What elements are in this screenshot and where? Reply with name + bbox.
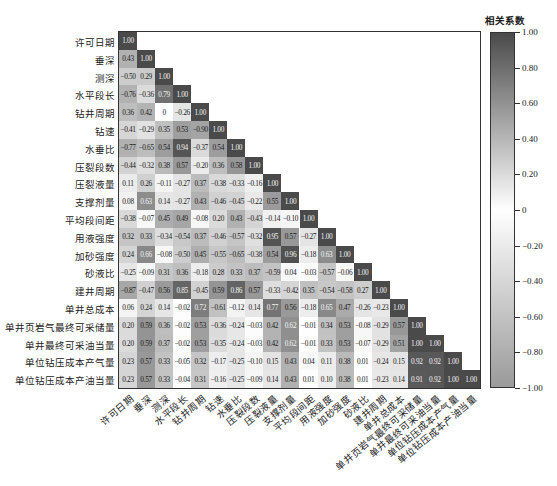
- heatmap-cell: 0.29: [137, 68, 155, 86]
- colorbar-tick-label: −0.60: [522, 312, 543, 322]
- heatmap-cell: 0.54: [263, 246, 281, 264]
- heatmap-cell: 1.00: [173, 85, 191, 103]
- heatmap-cell: 0.45: [155, 210, 173, 228]
- heatmap-cell: −0.18: [191, 263, 209, 281]
- heatmap-cell: −0.01: [300, 317, 318, 335]
- heatmap-cell: 0.53: [336, 317, 354, 335]
- heatmap-cell: −0.65: [137, 139, 155, 157]
- heatmap-cell: 0.23: [119, 370, 137, 388]
- heatmap-cell: 0.14: [245, 299, 263, 317]
- heatmap-cell: 0.08: [119, 192, 137, 210]
- heatmap-cell: 1.00: [426, 335, 444, 353]
- colorbar-tick-label: −0.80: [522, 347, 543, 357]
- heatmap-cell: 0.20: [119, 317, 137, 335]
- heatmap-cell: −0.25: [119, 263, 137, 281]
- correlation-heatmap: 1.000.431.00−0.500.291.00−0.76−0.360.791…: [0, 0, 557, 486]
- heatmap-cell: −0.57: [227, 228, 245, 246]
- heatmap-cell: 0.54: [155, 139, 173, 157]
- heatmap-cell: −0.27: [173, 174, 191, 192]
- colorbar-tick: [515, 388, 520, 389]
- heatmap-cell: −0.23: [372, 370, 390, 388]
- heatmap-cell: 0.92: [408, 352, 426, 370]
- heatmap-cell: 1.00: [390, 299, 408, 317]
- colorbar-title: 相关系数: [485, 13, 525, 27]
- heatmap-cell: 0.36: [155, 317, 173, 335]
- heatmap-cell: 1.00: [408, 335, 426, 353]
- y-axis-label: 压裂段数: [75, 160, 115, 174]
- heatmap-cell: −0.42: [281, 281, 299, 299]
- heatmap-cell: 1.00: [263, 174, 281, 192]
- heatmap-cell: 0.38: [155, 157, 173, 175]
- colorbar-tick-label: 1.00: [522, 27, 538, 37]
- colorbar-tick: [515, 139, 520, 140]
- heatmap-cell: 0.15: [263, 352, 281, 370]
- heatmap-cell: 1.00: [227, 139, 245, 157]
- heatmap-cell: −0.10: [245, 352, 263, 370]
- heatmap-cell: 0.15: [390, 352, 408, 370]
- heatmap-cell: 0.53: [191, 317, 209, 335]
- heatmap-cell: −0.12: [227, 299, 245, 317]
- heatmap-cell: 0.77: [263, 299, 281, 317]
- heatmap-cell: 0.63: [318, 246, 336, 264]
- heatmap-cell: 0.38: [336, 370, 354, 388]
- heatmap-cell: −0.24: [227, 335, 245, 353]
- heatmap-cell: 0.04: [281, 263, 299, 281]
- heatmap-cell: 0.04: [300, 352, 318, 370]
- heatmap-cell: 0.31: [155, 263, 173, 281]
- heatmap-cell: 0.37: [191, 174, 209, 192]
- heatmap-cell: −0.46: [209, 228, 227, 246]
- heatmap-cell: −0.57: [318, 263, 336, 281]
- heatmap-cell: −0.34: [155, 228, 173, 246]
- heatmap-cell: −0.10: [281, 210, 299, 228]
- heatmap-cell: −0.24: [372, 352, 390, 370]
- heatmap-cell: −0.38: [245, 246, 263, 264]
- heatmap-cell: −0.11: [155, 174, 173, 192]
- heatmap-cell: −0.03: [300, 263, 318, 281]
- heatmap-cell: 0.36: [209, 157, 227, 175]
- heatmap-cell: −0.03: [245, 317, 263, 335]
- heatmap-cell: −0.47: [137, 281, 155, 299]
- heatmap-cell: 0.23: [119, 352, 137, 370]
- heatmap-cell: 0.31: [191, 370, 209, 388]
- heatmap-cell: 0.59: [137, 335, 155, 353]
- heatmap-cell: −0.36: [209, 317, 227, 335]
- heatmap-cell: 1.00: [300, 210, 318, 228]
- heatmap-cell: −0.41: [119, 121, 137, 139]
- y-axis-label: 平均段间距: [65, 213, 115, 227]
- heatmap-cell: −0.16: [209, 370, 227, 388]
- heatmap-cell: 0.36: [173, 263, 191, 281]
- heatmap-cell: 0.57: [173, 157, 191, 175]
- heatmap-cell: −0.45: [191, 281, 209, 299]
- heatmap-cell: −0.87: [119, 281, 137, 299]
- heatmap-cell: 0.53: [173, 121, 191, 139]
- heatmap-cell: 0.62: [281, 335, 299, 353]
- heatmap-cell: 0.32: [119, 228, 137, 246]
- heatmap-cell: 1.00: [462, 370, 480, 388]
- heatmap-cell: 0.14: [263, 370, 281, 388]
- heatmap-cell: 0.63: [137, 192, 155, 210]
- heatmap-cell: −0.33: [227, 174, 245, 192]
- heatmap-cell: −0.01: [300, 335, 318, 353]
- y-axis-label: 钻井周期: [75, 106, 115, 120]
- heatmap-cell: 0.57: [245, 281, 263, 299]
- heatmap-cell: 0.59: [137, 317, 155, 335]
- heatmap-cell: −0.07: [354, 335, 372, 353]
- colorbar-tick: [515, 246, 520, 247]
- heatmap-cell: −0.18: [300, 299, 318, 317]
- y-axis-label: 垂深: [95, 53, 115, 67]
- colorbar-tick: [515, 103, 520, 104]
- colorbar-tick-label: −0.20: [522, 241, 543, 251]
- heatmap-cell: −0.23: [372, 299, 390, 317]
- colorbar-tick-label: 0.80: [522, 63, 538, 73]
- heatmap-cell: 0.94: [173, 139, 191, 157]
- heatmap-cell: 0.27: [354, 281, 372, 299]
- colorbar-tick-label: −0.40: [522, 276, 543, 286]
- heatmap-cell: −0.38: [209, 174, 227, 192]
- heatmap-cell: −0.09: [245, 370, 263, 388]
- heatmap-cell: −0.14: [263, 210, 281, 228]
- heatmap-cell: −0.76: [119, 85, 137, 103]
- colorbar-tick: [515, 174, 520, 175]
- heatmap-cell: −0.43: [245, 210, 263, 228]
- heatmap-cell: 0.34: [318, 317, 336, 335]
- heatmap-cell: −0.29: [372, 335, 390, 353]
